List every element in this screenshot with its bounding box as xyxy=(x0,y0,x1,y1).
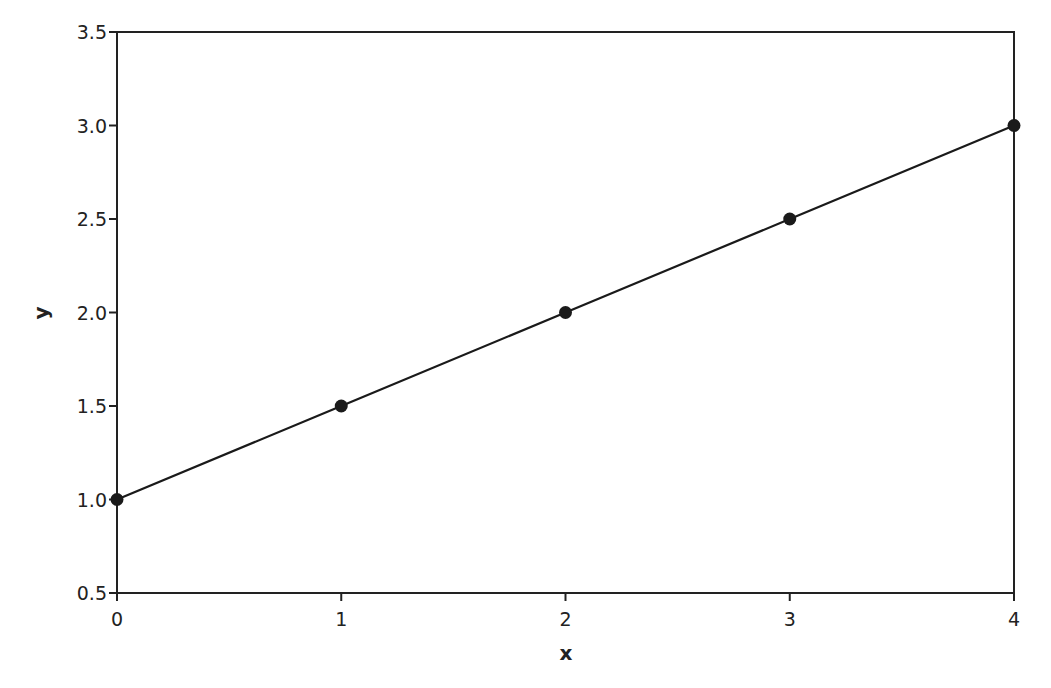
y-tick-label: 0.5 xyxy=(77,582,107,604)
data-point-marker xyxy=(783,213,796,226)
line-chart: 0.51.01.52.02.53.03.5 01234 x y xyxy=(0,0,1051,688)
data-point-marker xyxy=(1008,119,1021,132)
y-tick-label: 1.5 xyxy=(77,395,107,417)
y-axis-title: y xyxy=(29,306,53,319)
y-tick-label: 3.5 xyxy=(77,21,107,43)
y-tick-label: 2.5 xyxy=(77,208,107,230)
data-point-marker xyxy=(559,306,572,319)
x-tick-label: 1 xyxy=(335,608,347,630)
y-tick-label: 2.0 xyxy=(77,302,107,324)
x-tick-label: 2 xyxy=(559,608,571,630)
y-tick-label: 3.0 xyxy=(77,115,107,137)
data-point-marker xyxy=(111,493,124,506)
y-tick-label: 1.0 xyxy=(77,489,107,511)
data-markers xyxy=(111,119,1021,506)
data-point-marker xyxy=(335,400,348,413)
x-tick-label: 0 xyxy=(111,608,123,630)
x-axis-ticks: 01234 xyxy=(111,593,1020,630)
y-axis-ticks: 0.51.01.52.02.53.03.5 xyxy=(77,21,117,604)
x-axis-title: x xyxy=(560,641,573,665)
x-tick-label: 4 xyxy=(1008,608,1020,630)
x-tick-label: 3 xyxy=(784,608,796,630)
